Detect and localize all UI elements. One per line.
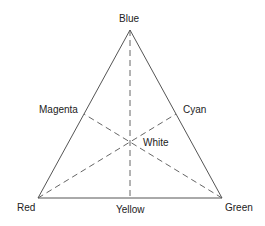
label-blue: Blue <box>119 13 139 25</box>
label-magenta: Magenta <box>39 104 78 116</box>
label-cyan: Cyan <box>183 104 206 116</box>
label-yellow: Yellow <box>116 204 145 216</box>
label-red: Red <box>17 202 35 214</box>
median-red-cyan <box>38 114 176 198</box>
label-green: Green <box>225 202 253 214</box>
label-white: White <box>143 137 169 149</box>
median-green-magenta <box>84 114 222 198</box>
